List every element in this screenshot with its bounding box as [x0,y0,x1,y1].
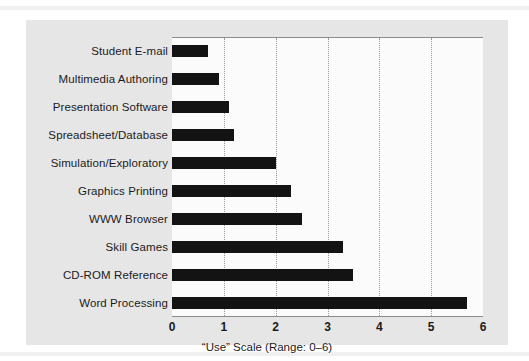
bar [172,73,219,85]
bar [172,157,276,169]
x-tick-label-6: 6 [468,320,498,334]
category-label: Multimedia Authoring [59,65,168,93]
bar [172,297,467,309]
bar-row [172,149,483,177]
category-label: Skill Games [106,233,168,261]
bar [172,185,291,197]
category-label: Graphics Printing [78,177,168,205]
x-tick-label-0: 0 [157,320,187,334]
category-label: CD-ROM Reference [63,261,168,289]
x-tick-label-3: 3 [313,320,343,334]
bar-row [172,205,483,233]
bar-rows-group [172,37,483,317]
bar-row [172,37,483,65]
bar-row [172,93,483,121]
bar [172,129,234,141]
bar-row [172,289,483,317]
category-label: WWW Browser [89,205,168,233]
plot-area [172,37,483,317]
bar [172,269,353,281]
x-tick-label-4: 4 [364,320,394,334]
bar [172,213,302,225]
bar-row [172,233,483,261]
category-label: Word Processing [79,289,168,317]
x-tick-label-1: 1 [209,320,239,334]
category-label: Presentation Software [53,93,168,121]
bar [172,101,229,113]
scan-separator-top [0,6,529,10]
bar-row [172,177,483,205]
category-label: Spreadsheet/Database [48,121,168,149]
bar-row [172,65,483,93]
x-tick-label-2: 2 [261,320,291,334]
bar [172,45,208,57]
x-axis-title: “Use” Scale (Range: 0–6) [26,341,508,353]
chart-figure-panel: Student E-mailMultimedia AuthoringPresen… [26,20,508,345]
bar-row [172,261,483,289]
category-label: Student E-mail [91,37,168,65]
bar [172,241,343,253]
category-label: Simulation/Exploratory [51,149,168,177]
x-tick-label-5: 5 [416,320,446,334]
bar-row [172,121,483,149]
